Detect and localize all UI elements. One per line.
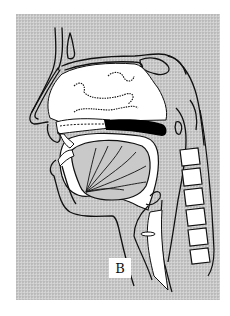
hard-palate xyxy=(56,119,110,134)
figure-label-text: B xyxy=(115,261,125,276)
figure-label: B xyxy=(109,258,131,278)
cervical-vertebrae xyxy=(180,148,210,264)
vocal-fold xyxy=(141,232,155,236)
laryngeal-lumen xyxy=(147,210,168,290)
